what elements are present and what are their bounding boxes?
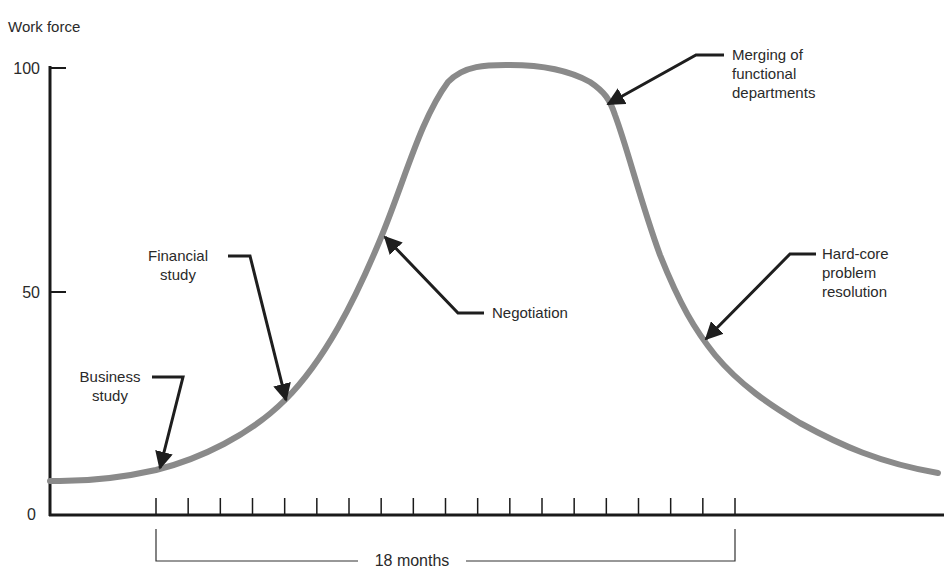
annotation-hardcore: Hard-core problem resolution (822, 244, 889, 301)
annotation-line: Business (70, 367, 150, 386)
span-bracket-left (156, 529, 358, 561)
annotation-line: resolution (822, 282, 889, 301)
annotation-line: problem (822, 263, 889, 282)
annotation-line: study (130, 265, 226, 284)
arrow-negotiation (385, 237, 484, 313)
y-axis-title: Work force (8, 17, 80, 36)
annotation-merging: Merging of functional departments (732, 45, 815, 102)
span-label: 18 months (358, 551, 466, 570)
x-ticks (156, 498, 735, 515)
annotation-line: Merging of (732, 45, 815, 64)
annotation-line: study (70, 386, 150, 405)
annotation-line: functional (732, 64, 815, 83)
arrow-business-study (152, 377, 183, 468)
arrow-hardcore (706, 254, 816, 339)
y-tick-label-50: 50 (0, 283, 40, 302)
annotation-line: Hard-core (822, 244, 889, 263)
arrow-financial-study (228, 256, 286, 400)
y-tick-label-0: 0 (0, 505, 36, 524)
span-bracket-right (466, 529, 735, 561)
annotation-negotiation: Negotiation (492, 303, 568, 322)
y-tick-label-100: 100 (0, 59, 40, 78)
annotation-line: departments (732, 83, 815, 102)
arrow-merging (608, 55, 724, 104)
annotation-business-study: Business study (70, 367, 150, 405)
annotation-financial-study: Financial study (130, 246, 226, 284)
annotation-line: Financial (130, 246, 226, 265)
